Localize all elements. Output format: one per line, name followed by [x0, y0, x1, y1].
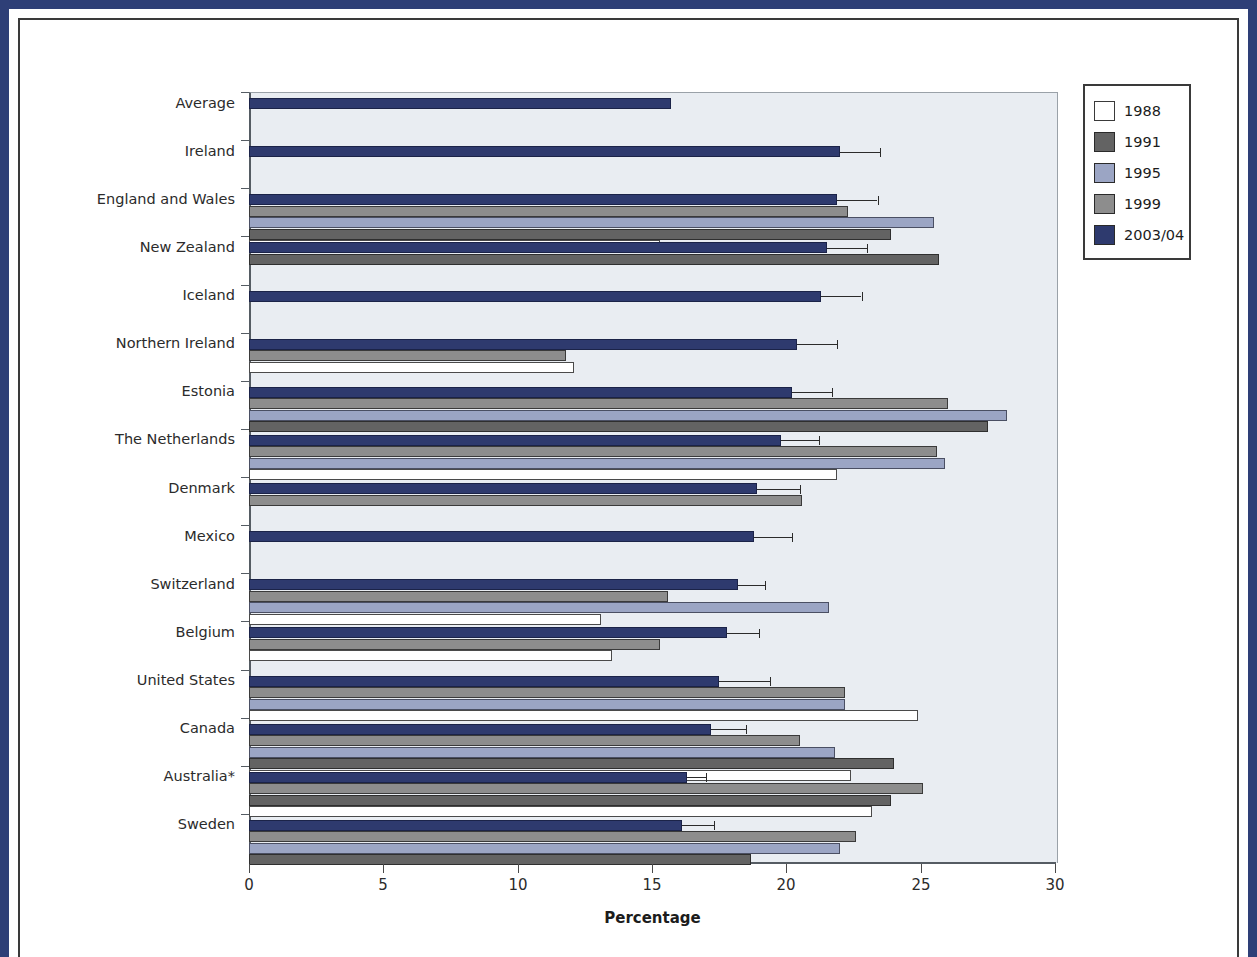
- error-bar-cap: [832, 388, 833, 397]
- error-bar-line: [687, 777, 706, 778]
- error-bar-cap: [714, 821, 715, 830]
- bar-northern-ireland-1988: [249, 362, 574, 373]
- x-axis-tick: [786, 864, 787, 873]
- legend-item-1988[interactable]: 1988: [1094, 95, 1189, 126]
- x-axis-tick-label: 5: [363, 876, 403, 894]
- legend-swatch-icon: [1094, 225, 1115, 245]
- y-axis-label-iceland: Iceland: [20, 287, 235, 303]
- y-axis-label-the-netherlands: The Netherlands: [20, 431, 235, 447]
- error-bar-cap: [800, 485, 801, 494]
- error-bar-line: [727, 633, 759, 634]
- y-axis-tick: [241, 236, 249, 237]
- chart-legend: 19881991199519992003/04: [1083, 84, 1191, 260]
- bar-denmark-1999: [249, 495, 802, 506]
- bar-england-and-wales-1995: [249, 217, 934, 228]
- legend-label: 1999: [1124, 196, 1161, 212]
- bar-australia-1988: [249, 806, 872, 817]
- bar-switzerland-2003-04: [249, 579, 738, 590]
- bar-iceland-2003-04: [249, 291, 821, 302]
- bar-united-states-2003-04: [249, 676, 719, 687]
- error-bar-cap: [792, 533, 793, 542]
- y-axis-label-switzerland: Switzerland: [20, 576, 235, 592]
- bar-estonia-2003-04: [249, 387, 792, 398]
- bar-australia-2003-04: [249, 772, 687, 783]
- error-bar-cap: [770, 677, 771, 686]
- bar-united-states-1999: [249, 687, 845, 698]
- legend-label: 1995: [1124, 165, 1161, 181]
- bar-the-netherlands-2003-04: [249, 435, 781, 446]
- error-bar-line: [711, 729, 746, 730]
- x-axis-tick-label: 10: [498, 876, 538, 894]
- y-axis-label-average: Average: [20, 95, 235, 111]
- y-axis-tick: [241, 477, 249, 478]
- y-axis-tick: [241, 140, 249, 141]
- error-bar-cap: [819, 436, 820, 445]
- y-axis-label-mexico: Mexico: [20, 528, 235, 544]
- error-bar-line: [821, 296, 861, 297]
- bar-canada-1991: [249, 758, 894, 769]
- bar-mexico-2003-04: [249, 531, 754, 542]
- bar-belgium-2003-04: [249, 627, 727, 638]
- error-bar-cap: [862, 292, 863, 301]
- error-bar-line: [840, 152, 880, 153]
- x-axis-tick-label: 15: [632, 876, 672, 894]
- bar-northern-ireland-2003-04: [249, 339, 797, 350]
- bar-canada-1995: [249, 747, 835, 758]
- legend-label: 1988: [1124, 103, 1161, 119]
- bar-northern-ireland-1999: [249, 350, 566, 361]
- y-axis-label-canada: Canada: [20, 720, 235, 736]
- chart-canvas: AverageIrelandEngland and WalesNew Zeala…: [20, 20, 1257, 957]
- y-axis-tick: [241, 381, 249, 382]
- x-axis-tick: [1055, 864, 1056, 873]
- bar-the-netherlands-1988: [249, 469, 837, 480]
- x-axis-tick-label: 20: [766, 876, 806, 894]
- legend-item-2003-04[interactable]: 2003/04: [1094, 219, 1189, 250]
- bar-sweden-1991: [249, 854, 751, 865]
- y-axis-tick: [241, 429, 249, 430]
- bar-estonia-1991: [249, 421, 988, 432]
- figure-frame: AverageIrelandEngland and WalesNew Zeala…: [0, 0, 1257, 957]
- error-bar-line: [682, 825, 714, 826]
- legend-label: 2003/04: [1124, 227, 1184, 243]
- legend-item-1991[interactable]: 1991: [1094, 126, 1189, 157]
- x-axis-tick: [249, 864, 250, 873]
- y-axis-label-estonia: Estonia: [20, 383, 235, 399]
- x-axis-tick-label: 30: [1035, 876, 1075, 894]
- bar-average-2003-04: [249, 98, 671, 109]
- bar-ireland-2003-04: [249, 146, 840, 157]
- bar-denmark-2003-04: [249, 483, 757, 494]
- y-axis-label-denmark: Denmark: [20, 480, 235, 496]
- bar-switzerland-1988: [249, 614, 601, 625]
- legend-label: 1991: [1124, 134, 1161, 150]
- bar-new-zealand-2003-04: [249, 242, 827, 253]
- legend-swatch-icon: [1094, 194, 1115, 214]
- error-bar-cap: [837, 340, 838, 349]
- bar-switzerland-1999: [249, 591, 668, 602]
- y-axis-tick: [241, 333, 249, 334]
- error-bar-line: [719, 681, 770, 682]
- y-axis-tick: [241, 573, 249, 574]
- bar-england-and-wales-2003-04: [249, 194, 837, 205]
- x-axis-tick: [921, 864, 922, 873]
- bar-england-and-wales-1999: [249, 206, 848, 217]
- y-axis-tick: [241, 92, 249, 93]
- y-axis-label-united-states: United States: [20, 672, 235, 688]
- y-axis-tick: [241, 718, 249, 719]
- y-axis-tick: [241, 188, 249, 189]
- bar-estonia-1999: [249, 398, 948, 409]
- bar-australia-1999: [249, 783, 923, 794]
- x-axis-tick-label: 0: [229, 876, 269, 894]
- y-axis-label-belgium: Belgium: [20, 624, 235, 640]
- error-bar-cap: [867, 244, 868, 253]
- bar-canada-2003-04: [249, 724, 711, 735]
- error-bar-cap: [878, 196, 879, 205]
- legend-item-1999[interactable]: 1999: [1094, 188, 1189, 219]
- error-bar-cap: [746, 725, 747, 734]
- figure-inner-border: AverageIrelandEngland and WalesNew Zeala…: [18, 18, 1239, 957]
- x-axis-tick: [383, 864, 384, 873]
- legend-item-1995[interactable]: 1995: [1094, 157, 1189, 188]
- y-axis-tick: [241, 670, 249, 671]
- bar-belgium-1988: [249, 650, 612, 661]
- x-axis-tick: [518, 864, 519, 873]
- bar-the-netherlands-1999: [249, 446, 937, 457]
